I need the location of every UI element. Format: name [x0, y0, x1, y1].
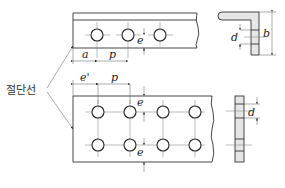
top-section-view: d b [218, 12, 276, 55]
steel-connection-diagram: a p e d b 절단선 e' [0, 0, 285, 188]
dim-b-label: b [263, 27, 270, 40]
cut-line-label: 절단선 [6, 84, 36, 97]
dim-e-label-top: e [137, 34, 144, 47]
dim-d-label-bottom: d [248, 106, 255, 119]
dim-e-label-bottom-2: e [137, 146, 144, 159]
dim-e-label-bottom-1: e [137, 96, 144, 109]
bottom-section-view: d [226, 96, 260, 162]
dim-e-prime-label: e' [80, 71, 90, 84]
dim-p-label-top: p [109, 48, 116, 61]
top-plate: a p e [73, 13, 199, 64]
top-hole-3 [148, 22, 173, 46]
bottom-plate: e' p e e [73, 71, 214, 172]
cut-line-callout: 절단선 [6, 46, 73, 129]
dim-a-label: a [82, 48, 89, 61]
dim-d-label-top: d [231, 31, 238, 44]
bottom-holes-row-2 [85, 139, 205, 151]
dim-p-label-bottom: p [111, 71, 118, 84]
top-hole-1 [85, 22, 110, 58]
